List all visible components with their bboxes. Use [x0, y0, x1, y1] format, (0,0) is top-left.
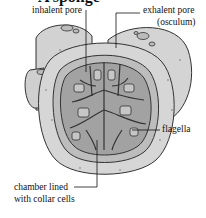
- label-exhalent-pore: exhalent pore: [143, 5, 194, 16]
- label-inhalent-pore: inhalent pore: [32, 5, 82, 16]
- label-flagella: flagella: [162, 124, 190, 135]
- label-osculum: (osculum): [157, 17, 196, 28]
- label-chamber-line1: chamber lined: [14, 182, 68, 193]
- sponge-body: [39, 43, 181, 174]
- label-chamber-line2: with collar cells: [14, 194, 75, 205]
